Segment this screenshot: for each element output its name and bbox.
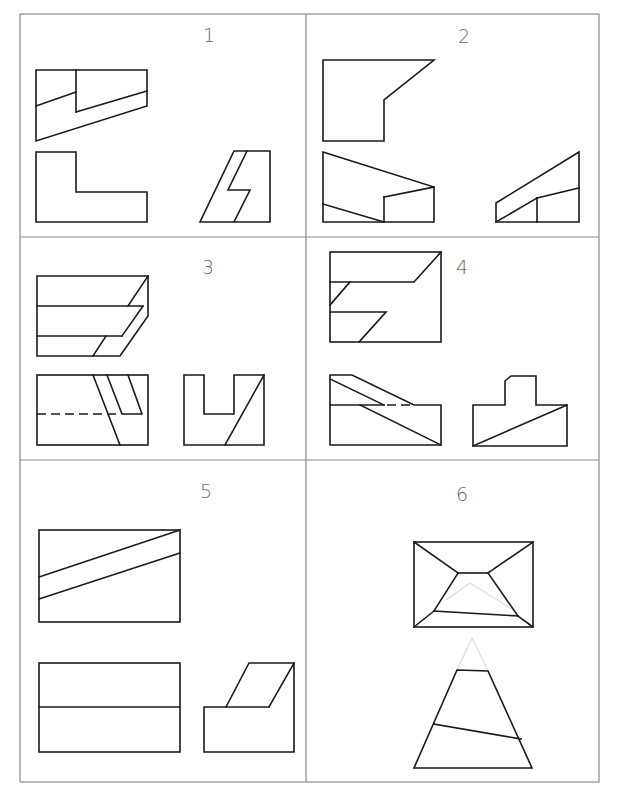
panel-1 (36, 70, 270, 222)
panel-5-top-view (39, 530, 180, 622)
panel-1-top-view (36, 70, 147, 141)
panel-5 (39, 530, 294, 752)
panel-4-number: 4 (456, 258, 468, 277)
panel-2-number: 2 (458, 27, 470, 46)
panel-2-front-view (323, 152, 434, 222)
panel-4-front-view (330, 375, 441, 445)
drawing-sheet: 1 2 3 4 5 6 (0, 0, 619, 799)
panel-grid (20, 14, 599, 782)
panel-6-number: 6 (456, 485, 468, 504)
panel-1-number: 1 (203, 26, 215, 45)
panel-2-side-view (496, 152, 579, 222)
panel-2 (323, 60, 579, 222)
panel-4-side-view (473, 376, 567, 446)
panel-3 (37, 276, 264, 445)
panel-4 (330, 252, 567, 446)
panel-3-top-view (37, 276, 148, 356)
panel-5-number: 5 (200, 482, 212, 501)
panel-6 (414, 542, 533, 768)
drawing-canvas (0, 0, 619, 799)
outer-border (20, 14, 599, 782)
panel-6-top-view (414, 542, 533, 627)
panel-5-side-view (204, 663, 294, 752)
panel-1-side-view (200, 151, 270, 222)
panel-2-top-view (323, 60, 434, 141)
panel-3-side-view (184, 375, 264, 445)
panel-1-front-view (36, 152, 147, 222)
panel-6-front-view (414, 638, 532, 768)
panel-5-front-view (39, 663, 180, 752)
panel-3-number: 3 (202, 258, 214, 277)
panel-4-top-view (330, 252, 441, 342)
panel-3-front-view (37, 375, 148, 445)
